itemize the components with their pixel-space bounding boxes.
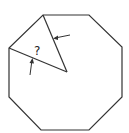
octagon	[9, 15, 122, 130]
arrow-icon-lower	[30, 58, 35, 75]
angle-question-label: ?	[34, 44, 40, 58]
arrow-icon-upper	[53, 35, 70, 40]
octagon-diagram: ?	[0, 0, 129, 133]
